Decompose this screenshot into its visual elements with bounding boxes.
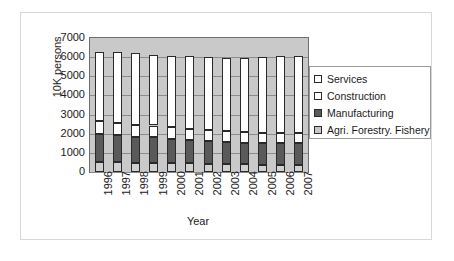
bar-stack[interactable] (294, 56, 303, 172)
bar-segment[interactable] (204, 57, 213, 130)
x-axis-tick-label: 2005 (266, 171, 278, 215)
chart-legend: ServicesConstructionManufacturingAgri. F… (309, 66, 431, 139)
bar-segment[interactable] (113, 135, 122, 162)
bar-segment[interactable] (131, 125, 140, 137)
bar-segment[interactable] (294, 143, 303, 165)
x-axis-tick-label: 1996 (102, 171, 114, 215)
bar-segment[interactable] (149, 126, 158, 138)
bar-segment[interactable] (95, 52, 104, 122)
x-axis-tick-label: 2004 (247, 171, 259, 215)
legend-item[interactable]: Construction (314, 88, 386, 104)
legend-label: Manufacturing (327, 108, 394, 119)
x-axis-tick-label: 2007 (302, 171, 314, 215)
bar-segment[interactable] (276, 56, 285, 133)
bar-stack[interactable] (95, 52, 104, 172)
bar-stack[interactable] (167, 56, 176, 172)
chart-frame: 10K persons 7000600050004000300020001000… (20, 12, 432, 240)
bar-stack[interactable] (149, 55, 158, 172)
x-axis-title: Year (89, 215, 307, 227)
y-axis-tick-label: 0 (51, 166, 85, 176)
y-axis-tick-label: 7000 (51, 32, 85, 42)
bar-segment[interactable] (185, 129, 194, 140)
bar-stack[interactable] (131, 53, 140, 172)
bar-segment[interactable] (113, 123, 122, 136)
bar-stack[interactable] (258, 57, 267, 172)
legend-swatch-icon (314, 126, 322, 134)
bar-segment[interactable] (294, 133, 303, 143)
y-axis-tick-label: 1000 (51, 147, 85, 157)
x-axis-tick-label: 2001 (193, 171, 205, 215)
x-axis-tick-label: 2006 (284, 171, 296, 215)
bar-segment[interactable] (167, 139, 176, 163)
legend-item[interactable]: Services (314, 71, 367, 87)
bar-segment[interactable] (204, 141, 213, 164)
bar-segment[interactable] (185, 56, 194, 129)
bar-segment[interactable] (204, 130, 213, 141)
bar-segment[interactable] (240, 58, 249, 132)
bar-segment[interactable] (222, 58, 231, 131)
x-axis-tick-label: 1998 (138, 171, 150, 215)
x-axis-tick-label: 2000 (175, 171, 187, 215)
bar-segment[interactable] (113, 52, 122, 123)
legend-swatch-icon (314, 92, 322, 100)
plot-area (89, 37, 309, 173)
legend-label: Construction (327, 91, 386, 102)
legend-label: Agri. Forestry. Fishery (327, 125, 430, 136)
legend-swatch-icon (314, 75, 322, 83)
y-axis-tick-label: 3000 (51, 109, 85, 119)
bar-segment[interactable] (149, 137, 158, 162)
bar-segment[interactable] (294, 56, 303, 133)
bar-segment[interactable] (131, 53, 140, 125)
bar-segment[interactable] (185, 140, 194, 164)
bar-segment[interactable] (149, 55, 158, 125)
x-axis-tick-label: 1999 (157, 171, 169, 215)
x-axis-tick-label: 1997 (120, 171, 132, 215)
bar-stack[interactable] (204, 57, 213, 172)
x-axis-tick-labels: 1996199719981999200020012002200320042005… (89, 173, 309, 217)
bars-layer (90, 38, 308, 172)
y-axis-tick-label: 6000 (51, 51, 85, 61)
bar-stack[interactable] (185, 56, 194, 172)
bar-segment[interactable] (95, 121, 104, 134)
y-axis-tick-label: 4000 (51, 89, 85, 99)
x-axis-tick-label: 2003 (229, 171, 241, 215)
bar-segment[interactable] (258, 57, 267, 132)
bar-segment[interactable] (240, 132, 249, 143)
bar-stack[interactable] (240, 58, 249, 172)
bar-segment[interactable] (131, 137, 140, 162)
y-axis-tick-labels: 70006000500040003000200010000 (51, 32, 85, 172)
legend-item[interactable]: Manufacturing (314, 105, 394, 121)
y-axis-tick-label: 5000 (51, 70, 85, 80)
bar-segment[interactable] (167, 127, 176, 139)
bar-segment[interactable] (258, 143, 267, 165)
legend-item[interactable]: Agri. Forestry. Fishery (314, 122, 430, 138)
y-axis-tick-label: 2000 (51, 128, 85, 138)
bar-segment[interactable] (240, 143, 249, 165)
bar-stack[interactable] (276, 56, 285, 172)
bar-stack[interactable] (113, 52, 122, 172)
bar-segment[interactable] (276, 143, 285, 165)
bar-segment[interactable] (95, 134, 104, 162)
bar-segment[interactable] (167, 56, 176, 128)
legend-swatch-icon (314, 109, 322, 117)
bar-segment[interactable] (258, 133, 267, 143)
bar-segment[interactable] (222, 142, 231, 164)
legend-label: Services (327, 74, 367, 85)
x-axis-tick-label: 2002 (211, 171, 223, 215)
bar-segment[interactable] (276, 133, 285, 143)
bar-segment[interactable] (222, 131, 231, 142)
bar-stack[interactable] (222, 58, 231, 172)
